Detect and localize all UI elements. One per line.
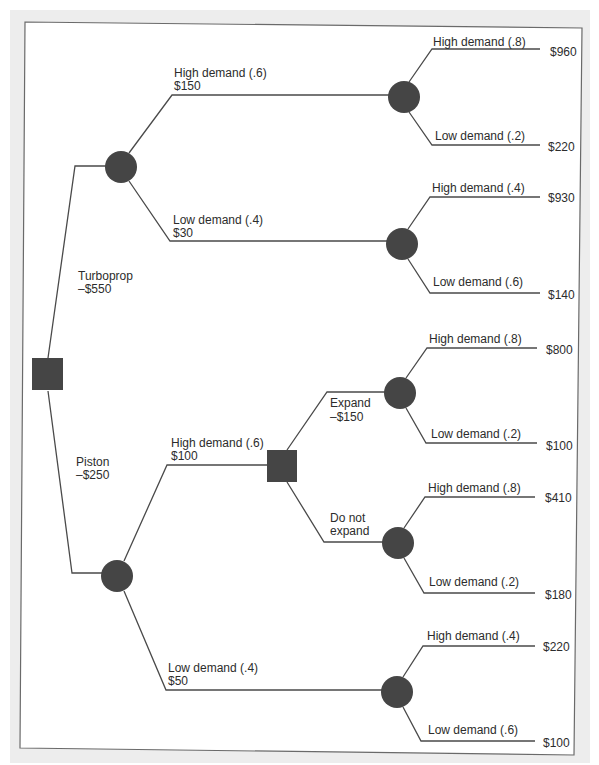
turbo-high-payoff: $150 — [174, 79, 201, 93]
expand-low-label: Low demand (.2) — [431, 427, 521, 441]
piston-low-high-value: $220 — [543, 640, 570, 654]
piston-cost: –$250 — [76, 468, 110, 482]
piston-low-chance-node — [381, 676, 413, 708]
turbo-low-low-label: Low demand (.6) — [433, 275, 523, 289]
no-expand-high-value: $410 — [545, 491, 572, 505]
turbo-low-payoff: $30 — [173, 226, 193, 240]
expand-label: Expand — [330, 396, 371, 410]
turboprop-label: Turboprop — [78, 269, 133, 283]
turbo-high-label: High demand (.6) — [174, 66, 267, 80]
no-expand-label-line2: expand — [330, 524, 369, 538]
expand-high-label: High demand (.8) — [429, 332, 522, 346]
piston-chance-node — [101, 560, 133, 592]
piston-high-label: High demand (.6) — [171, 436, 264, 450]
piston-low-payoff: $50 — [168, 674, 188, 688]
piston-low-low-value: $100 — [543, 736, 570, 750]
turbo-low-chance-node — [386, 228, 418, 260]
turboprop-chance-node — [105, 151, 137, 183]
turbo-low-label: Low demand (.4) — [173, 213, 263, 227]
turboprop-cost: –$550 — [78, 282, 112, 296]
root-decision-node — [32, 358, 63, 390]
expand-cost: –$150 — [330, 410, 364, 424]
no-expand-low-value: $180 — [545, 588, 572, 602]
piston-low-label: Low demand (.4) — [168, 661, 258, 675]
no-expand-low-label: Low demand (.2) — [429, 575, 519, 589]
turbo-low-high-value: $930 — [548, 191, 575, 205]
turbo-high-chance-node — [388, 81, 420, 113]
turbo-high-high-value: $960 — [550, 45, 577, 59]
turbo-high-low-value: $220 — [548, 140, 575, 154]
turbo-high-high-label: High demand (.8) — [433, 35, 526, 49]
expand-low-value: $100 — [546, 439, 573, 453]
no-expand-high-label: High demand (.8) — [428, 481, 521, 495]
no-expand-chance-node — [382, 527, 414, 559]
piston-label: Piston — [76, 455, 109, 469]
piston-low-low-label: Low demand (.6) — [428, 723, 518, 737]
turbo-high-low-label: Low demand (.2) — [435, 129, 525, 143]
piston-high-payoff: $100 — [171, 449, 198, 463]
turbo-low-high-label: High demand (.4) — [432, 181, 525, 195]
decision-tree-diagram: Turboprop –$550 Piston –$250 High demand… — [0, 0, 599, 765]
expand-high-value: $800 — [546, 343, 573, 357]
no-expand-label-line1: Do not — [330, 511, 366, 525]
expand-chance-node — [384, 377, 416, 409]
turbo-low-low-value: $140 — [548, 288, 575, 302]
expand-decision-node — [267, 450, 297, 482]
piston-low-high-label: High demand (.4) — [427, 629, 520, 643]
